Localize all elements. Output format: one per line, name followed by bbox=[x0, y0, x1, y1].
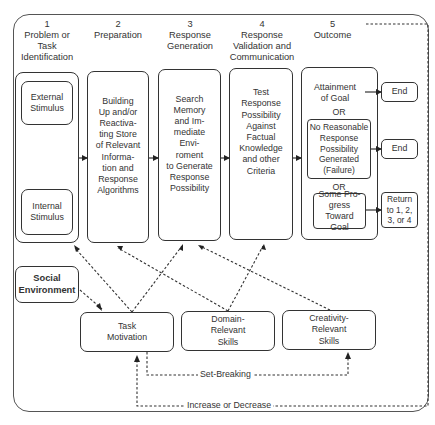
arrowhead-creativity bbox=[345, 352, 351, 359]
arrowhead-task bbox=[134, 355, 140, 362]
connector-layer bbox=[0, 0, 435, 425]
arrowhead-stage3-b bbox=[198, 245, 204, 250]
increase-decrease-loop bbox=[137, 24, 428, 406]
task-to-stage3-arrow bbox=[132, 246, 182, 312]
domain-to-stage4-arrow bbox=[228, 246, 263, 311]
arrowhead-stage1 bbox=[74, 245, 80, 252]
set-breaking-label: Set-Breaking bbox=[198, 369, 253, 379]
task-to-stage1-arrow bbox=[75, 248, 132, 312]
arrowhead-stage4 bbox=[261, 244, 266, 250]
arrowhead-social-task bbox=[96, 303, 102, 311]
increase-decrease-label: Increase or Decrease bbox=[185, 400, 273, 410]
creativity-to-stage3-arrow bbox=[200, 246, 330, 310]
